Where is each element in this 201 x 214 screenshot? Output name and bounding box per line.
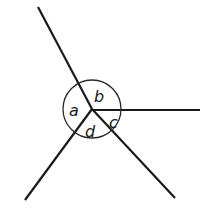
angle-label-c: c: [109, 113, 118, 132]
angle-label-a: a: [69, 101, 79, 120]
ray-upper-left: [38, 7, 92, 109]
angle-label-b: b: [94, 87, 104, 106]
angle-label-d: d: [85, 122, 96, 141]
ray-lower-right: [92, 109, 175, 198]
angle-diagram: a b c d: [0, 0, 201, 214]
ray-lower-left: [25, 109, 92, 200]
